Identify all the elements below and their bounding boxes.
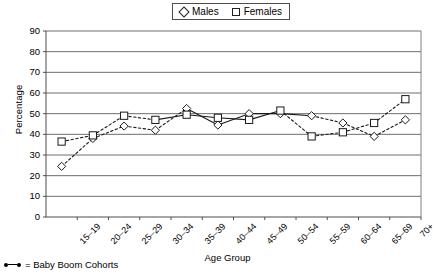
data-point-marker xyxy=(152,116,159,123)
data-point-marker xyxy=(183,111,190,118)
series-segment xyxy=(249,111,280,120)
data-point-marker xyxy=(308,112,316,120)
y-tick-label: 50 xyxy=(18,109,40,118)
series-segment xyxy=(62,138,93,166)
y-tick-label: 70 xyxy=(18,67,40,76)
data-point-marker xyxy=(370,132,378,140)
y-tick-label: 40 xyxy=(18,129,40,138)
y-tick-label: 30 xyxy=(18,150,40,159)
data-point-marker xyxy=(214,114,221,121)
data-point-marker xyxy=(151,126,159,134)
y-tick-label: 80 xyxy=(18,47,40,56)
data-point-marker xyxy=(89,132,96,139)
data-point-marker xyxy=(120,122,128,130)
data-point-marker xyxy=(308,133,315,140)
data-point-marker xyxy=(246,116,253,123)
data-point-marker xyxy=(214,121,222,129)
series-markers xyxy=(58,96,410,171)
data-point-marker xyxy=(58,138,65,145)
series-lines xyxy=(62,99,406,166)
series-segment xyxy=(343,123,374,132)
gridlines xyxy=(46,31,421,196)
series-segment xyxy=(124,116,155,120)
footnote: = Baby Boom Cohorts xyxy=(4,259,118,270)
data-point-marker xyxy=(401,116,409,124)
data-point-marker xyxy=(277,107,284,114)
y-tick-label: 0 xyxy=(18,212,40,221)
axis-frame xyxy=(46,31,421,217)
series-segment xyxy=(374,99,405,123)
y-tick-label: 20 xyxy=(18,171,40,180)
series-segment xyxy=(124,126,155,130)
footnote-text: = Baby Boom Cohorts xyxy=(25,259,118,270)
data-point-marker xyxy=(339,129,346,136)
data-point-marker xyxy=(371,119,378,126)
data-point-marker xyxy=(339,119,347,127)
y-tick-label: 60 xyxy=(18,88,40,97)
series-segment xyxy=(312,116,343,123)
y-tick-label: 90 xyxy=(18,26,40,35)
data-point-marker xyxy=(121,112,128,119)
data-point-marker xyxy=(402,96,409,103)
y-tick-label: 10 xyxy=(18,191,40,200)
baby-boom-line-icon xyxy=(4,263,21,267)
x-axis-title-text: Age Group xyxy=(205,252,251,263)
data-point-marker xyxy=(58,162,66,170)
